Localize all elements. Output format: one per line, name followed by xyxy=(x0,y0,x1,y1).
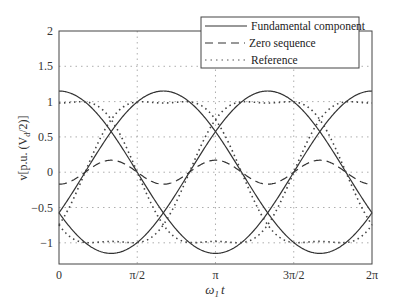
svg-text:1: 1 xyxy=(47,95,53,109)
y-axis-label: v[p.u. (Vd/2)] xyxy=(16,115,32,180)
svg-text:0.5: 0.5 xyxy=(38,130,53,144)
svg-text:0: 0 xyxy=(47,165,53,179)
svg-text:0: 0 xyxy=(56,268,62,282)
reference-curve-1 xyxy=(59,102,372,243)
legend-label-zero-sequence: Zero sequence xyxy=(249,37,316,50)
svg-text:−1: −1 xyxy=(40,236,53,250)
svg-text:π/2: π/2 xyxy=(130,268,145,282)
x-axis-label: ω1t xyxy=(205,282,225,299)
legend: Fundamental component Zero sequence Refe… xyxy=(201,17,366,68)
svg-text:1.5: 1.5 xyxy=(38,59,53,73)
legend-label-fundamental: Fundamental component xyxy=(251,20,366,33)
svg-text:2π: 2π xyxy=(366,268,378,282)
reference-curve-2 xyxy=(59,102,372,243)
chart: −1−0.500.511.520π/2π3π/22π ω1t v[p.u. (V… xyxy=(0,0,393,306)
svg-text:3π/2: 3π/2 xyxy=(283,268,304,282)
svg-text:π: π xyxy=(212,268,218,282)
legend-label-reference: Reference xyxy=(251,54,298,66)
svg-text:2: 2 xyxy=(47,24,53,38)
reference-curve-0 xyxy=(59,102,372,243)
svg-text:−0.5: −0.5 xyxy=(31,201,53,215)
